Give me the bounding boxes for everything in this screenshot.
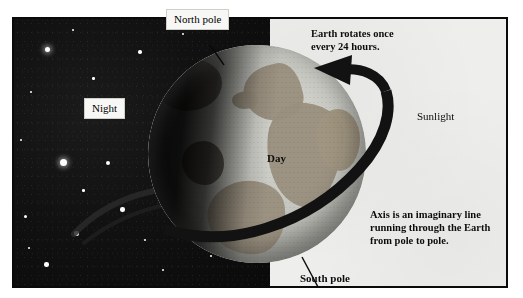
earth-rotation-figure: North pole Night South pole Earth rotate…	[0, 0, 523, 298]
callout-south-pole: South pole	[300, 272, 350, 285]
label-sunlight: Sunlight	[417, 110, 454, 123]
note-axis-definition: Axis is an imaginary line running throug…	[370, 208, 490, 247]
callout-north-pole: North pole	[166, 9, 229, 30]
note-rotation-period: Earth rotates once every 24 hours.	[311, 27, 394, 53]
illustration-frame	[12, 17, 508, 288]
leader-lines	[14, 19, 508, 288]
label-day: Day	[267, 152, 286, 165]
callout-night: Night	[84, 98, 125, 119]
